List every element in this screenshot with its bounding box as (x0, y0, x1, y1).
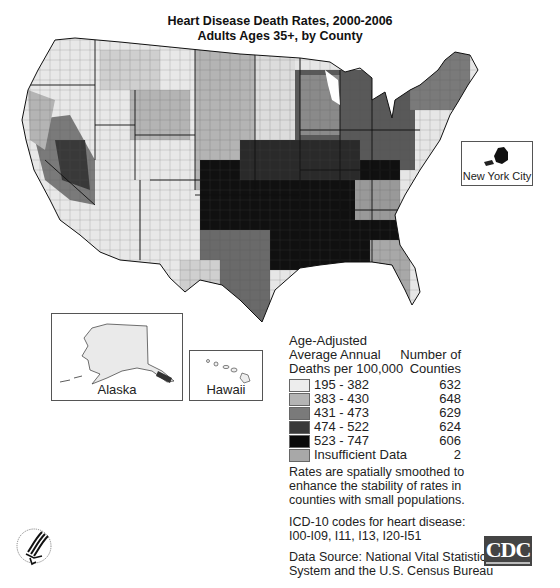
legend-swatch (289, 393, 310, 406)
cdc-logo-text: CDC (484, 537, 532, 563)
legend-heading-line: Average Annual (289, 348, 403, 362)
legend-heading-line: Deaths per 100,000 (289, 362, 403, 376)
legend-count: 632 (439, 378, 461, 392)
note-line: ICD-10 codes for heart disease: (289, 515, 465, 529)
cdc-logo-tagline (486, 562, 530, 564)
hhs-eagle-logo-icon (12, 522, 60, 570)
legend-count: 606 (439, 434, 461, 448)
legend-item: Insufficient Data 2 (289, 448, 459, 462)
alaska-inset: Alaska (51, 313, 183, 401)
legend-swatch (289, 435, 310, 448)
legend-count: 624 (439, 420, 461, 434)
hawaii-map (190, 353, 262, 385)
legend-item: 474 - 522 624 (289, 420, 459, 434)
legend-swatch (289, 449, 310, 462)
legend-count: 629 (439, 406, 461, 420)
note-line: Data Source: National Vital Statistics (289, 550, 493, 564)
legend-item: 195 - 382 632 (289, 378, 459, 392)
note-line: I00-I09, I11, I13, I20-I51 (289, 529, 465, 543)
legend-range: 431 - 473 (314, 406, 369, 420)
note-line: counties with small populations. (289, 493, 465, 507)
legend-range: Insufficient Data (314, 448, 407, 462)
nyc-inset: New York City (461, 141, 533, 186)
nyc-label: New York City (462, 170, 532, 182)
legend-swatch (289, 407, 310, 420)
legend-range: 474 - 522 (314, 420, 369, 434)
hawaii-inset: Hawaii (189, 350, 263, 401)
legend-item: 431 - 473 629 (289, 406, 459, 420)
legend-item: 523 - 747 606 (289, 434, 459, 448)
source-note: Data Source: National Vital Statistics S… (289, 550, 493, 578)
legend-count: 2 (454, 448, 461, 462)
legend: Age-Adjusted Average Annual Deaths per 1… (289, 334, 459, 462)
legend-range: 195 - 382 (314, 378, 369, 392)
legend-count-heading: Counties (399, 362, 461, 376)
smoothing-note: Rates are spatially smoothed to enhance … (289, 465, 465, 507)
legend-item: 383 - 430 648 (289, 392, 459, 406)
legend-heading: Age-Adjusted Average Annual Deaths per 1… (289, 334, 459, 378)
legend-swatch (289, 421, 310, 434)
cdc-logo: CDC (484, 536, 532, 566)
note-line: System and the U.S. Census Bureau (289, 564, 493, 578)
nyc-map (462, 144, 532, 170)
legend-range: 383 - 430 (314, 392, 369, 406)
note-line: Rates are spatially smoothed to (289, 465, 465, 479)
legend-range: 523 - 747 (314, 434, 369, 448)
legend-count: 648 (439, 392, 461, 406)
legend-count-heading: Number of (399, 348, 461, 362)
alaska-label: Alaska (52, 382, 182, 397)
title-line-1: Heart Disease Death Rates, 2000-2006 (0, 14, 560, 29)
hawaii-label: Hawaii (190, 382, 262, 397)
icd-note: ICD-10 codes for heart disease: I00-I09,… (289, 515, 465, 543)
legend-swatch (289, 379, 310, 392)
legend-heading-line: Age-Adjusted (289, 334, 403, 348)
note-line: enhance the stability of rates in (289, 479, 465, 493)
alaska-map (52, 316, 182, 386)
